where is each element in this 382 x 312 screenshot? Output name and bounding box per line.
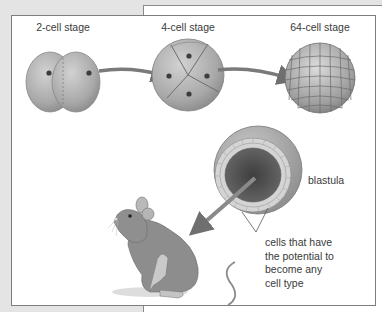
blastula bbox=[214, 126, 302, 232]
pluripotent-cells-callout: cells that have the potential to become … bbox=[265, 236, 334, 290]
stage-label-4-cell: 4-cell stage bbox=[161, 21, 215, 34]
stage-label-2-cell: 2-cell stage bbox=[36, 21, 90, 34]
callout-line-2: the potential to bbox=[265, 250, 334, 264]
blastula-label: blastula bbox=[308, 174, 344, 187]
two-cell-embryo bbox=[26, 52, 100, 112]
callout-line-1: cells that have bbox=[265, 236, 334, 250]
callout-line-4: cell type bbox=[265, 277, 334, 291]
four-cell-embryo bbox=[152, 39, 224, 111]
stage-label-64-cell: 64-cell stage bbox=[290, 21, 350, 34]
callout-line-3: become any bbox=[265, 263, 334, 277]
sixty-four-cell-embryo bbox=[285, 43, 355, 113]
arrow-4-to-64 bbox=[218, 69, 288, 78]
